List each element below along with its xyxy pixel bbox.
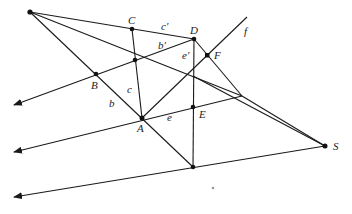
label-b: b [109,97,115,109]
point-f [205,53,210,58]
line-q-s [193,76,325,146]
line-s-g [14,146,325,197]
line-e [14,96,242,152]
line-r-s [242,96,325,146]
label-d: D [189,24,198,36]
line-o-r [30,12,242,96]
point-c [130,27,135,32]
label-s: S [333,140,339,152]
label-c-prime: c′ [161,20,169,32]
label-b-prime: b′ [158,39,167,51]
point-d [192,37,197,42]
point-s [323,144,328,149]
label-e-prime: e′ [182,49,190,61]
point-g [191,165,196,170]
geometry-diagram: C D F B A E S c′ b′ e′ f b c e [0,0,352,214]
line-e-prime [193,39,194,167]
line-d-r [194,39,242,96]
speck-mark [212,187,215,190]
point-a [140,116,145,121]
line-c [132,29,142,118]
label-e: e [167,111,172,123]
label-e: E [198,108,206,120]
point-p [133,58,138,63]
label-c: C [128,14,136,26]
label-a: A [136,122,144,134]
point-b [94,72,99,77]
line-b-prime [14,39,194,105]
label-c: c [127,83,132,95]
label-f: F [213,49,221,61]
label-f: f [244,25,249,37]
label-b: B [91,79,98,91]
point-o [27,9,32,14]
point-e [191,105,196,110]
